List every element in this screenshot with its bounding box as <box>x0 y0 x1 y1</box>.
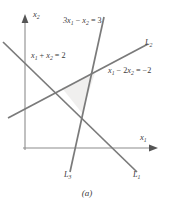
line-label-L1: L1 <box>132 170 141 180</box>
figure-container: x2 x1 x1 + x2 = 2 3x1 − x2 = 3 x1 − 2x2 … <box>0 0 175 204</box>
line-label-L2: L2 <box>144 38 153 48</box>
equation-label-3x1-minus-x2: 3x1 − x2 = 3 <box>62 16 102 26</box>
linear-program-diagram: x2 x1 x1 + x2 = 2 3x1 − x2 = 3 x1 − 2x2 … <box>0 0 175 204</box>
constraint-line-L1 <box>3 42 137 172</box>
x-axis-arrowhead <box>149 145 158 152</box>
equation-label-x1-minus-2x2: x1 − 2x2 = −2 <box>107 66 151 76</box>
y-axis-arrowhead <box>22 14 29 23</box>
x-axis-label: x1 <box>139 132 147 143</box>
figure-caption: (a) <box>82 188 93 198</box>
y-axis-label: x2 <box>32 9 40 20</box>
equation-label-x1-plus-x2: x1 + x2 = 2 <box>30 51 66 61</box>
